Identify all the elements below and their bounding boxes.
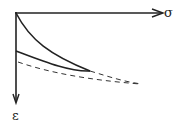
upper-loading-curve [16,13,90,71]
y-axis [13,12,19,103]
lower-unloading-curve [16,51,90,71]
y-axis-label: ε [12,109,19,122]
x-axis-label: σ [164,6,173,19]
stress-strain-diagram [0,0,186,129]
lower-dashed-curve [18,62,140,84]
x-axis [15,9,163,17]
